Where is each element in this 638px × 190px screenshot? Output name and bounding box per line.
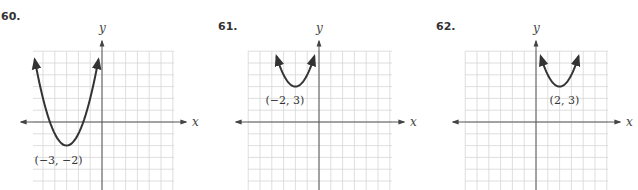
y-axis-label: y (98, 21, 106, 35)
x-axis-label: x (410, 115, 417, 129)
x-axis-label: x (192, 115, 199, 129)
grid (33, 51, 174, 190)
grid (248, 51, 392, 190)
x-axis-label: x (626, 115, 633, 129)
y-axis-label: y (532, 21, 540, 35)
y-axis-label: y (315, 21, 323, 35)
graphs-canvas: xy(−3, −2)xy(−2, 3)xy(2, 3) (0, 0, 638, 190)
graph-62: xy(2, 3) (453, 21, 633, 190)
vertex-label: (−2, 3) (265, 94, 304, 107)
graph-61: xy(−2, 3) (236, 21, 417, 190)
graph-60: xy(−3, −2) (21, 21, 199, 190)
vertex-label: (2, 3) (550, 94, 580, 107)
vertex-label: (−3, −2) (35, 154, 83, 167)
